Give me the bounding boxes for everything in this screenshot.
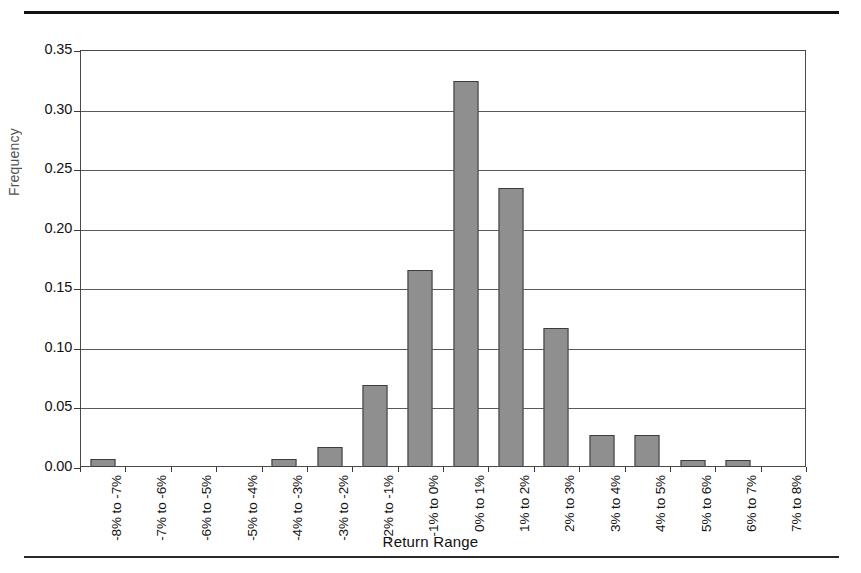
bar-slot <box>670 50 715 467</box>
bar <box>635 435 660 467</box>
y-axis-tick-label: 0.05 <box>45 398 72 414</box>
x-axis-tick-label: 2% to 3% <box>562 475 577 532</box>
y-axis-tick-label: 0.00 <box>45 458 72 474</box>
x-axis-tick-mark <box>125 467 126 472</box>
x-axis-tick-label: -6% to -5% <box>199 475 214 541</box>
bar <box>362 385 387 467</box>
x-axis-tick-label: 3% to 4% <box>608 475 623 532</box>
x-axis-tick-mark <box>262 467 263 472</box>
y-axis-title: Frequency <box>6 86 22 196</box>
bar-slot <box>534 50 579 467</box>
bar <box>725 460 750 467</box>
x-axis-tick-mark <box>625 467 626 472</box>
x-axis-tick-label: 4% to 5% <box>653 475 668 532</box>
x-axis-tick-mark <box>534 467 535 472</box>
y-axis-tick-label: 0.35 <box>45 41 72 57</box>
bar <box>499 188 524 467</box>
bar-series <box>80 50 806 467</box>
y-axis-tick-label: 0.20 <box>45 220 72 236</box>
x-axis-tick-label: 5% to 6% <box>699 475 714 532</box>
bar <box>453 81 478 467</box>
y-axis-tick-label: 0.10 <box>45 339 72 355</box>
bar-slot <box>761 50 806 467</box>
bar-slot <box>216 50 261 467</box>
x-axis-tick-label: -1% to 0% <box>426 475 441 536</box>
bar <box>408 270 433 467</box>
bar <box>589 435 614 467</box>
x-axis-tick-label: 6% to 7% <box>744 475 759 532</box>
y-axis-tick-label: 0.30 <box>45 101 72 117</box>
bar-slot <box>171 50 216 467</box>
x-axis-tick-mark <box>761 467 762 472</box>
bar-slot <box>579 50 624 467</box>
x-axis-tick-mark <box>216 467 217 472</box>
x-axis-tick-mark <box>171 467 172 472</box>
bar-slot <box>443 50 488 467</box>
x-axis-title: Return Range <box>0 533 861 550</box>
bar-slot <box>307 50 352 467</box>
bar-slot <box>625 50 670 467</box>
x-axis-tick-mark <box>488 467 489 472</box>
y-axis-tick-label: 0.15 <box>45 279 72 295</box>
y-axis-tick-label: 0.25 <box>45 160 72 176</box>
histogram-figure: Frequency 0.000.050.100.150.200.250.300.… <box>0 0 861 573</box>
x-axis-tick-mark <box>398 467 399 472</box>
bar <box>680 460 705 467</box>
x-axis-tick-label: 1% to 2% <box>517 475 532 532</box>
bar <box>317 447 342 467</box>
bar <box>90 459 115 467</box>
x-axis-tick-mark <box>80 467 81 472</box>
x-axis-tick-mark <box>670 467 671 472</box>
bar-slot <box>80 50 125 467</box>
x-axis-tick-label: -7% to -6% <box>154 475 169 541</box>
x-axis-tick-label: -3% to -2% <box>336 475 351 541</box>
x-axis-tick-label: 7% to 8% <box>789 475 804 532</box>
x-axis-tick-label: -4% to -3% <box>290 475 305 541</box>
bar-slot <box>715 50 760 467</box>
bar-slot <box>352 50 397 467</box>
bar-slot <box>488 50 533 467</box>
x-axis-tick-label: -2% to -1% <box>381 475 396 541</box>
x-axis-tick-label: -5% to -4% <box>245 475 260 541</box>
x-axis-tick-mark <box>443 467 444 472</box>
x-axis-tick-mark <box>806 467 807 472</box>
x-axis-tick-label: 0% to 1% <box>472 475 487 532</box>
bar-slot <box>398 50 443 467</box>
x-axis-tick-mark <box>307 467 308 472</box>
bar <box>544 328 569 467</box>
x-axis-tick-mark <box>352 467 353 472</box>
bar-slot <box>262 50 307 467</box>
x-axis-tick-mark <box>715 467 716 472</box>
bar-slot <box>125 50 170 467</box>
x-axis-tick-label: -8% to -7% <box>109 475 124 541</box>
bar <box>272 459 297 467</box>
x-axis-tick-mark <box>579 467 580 472</box>
